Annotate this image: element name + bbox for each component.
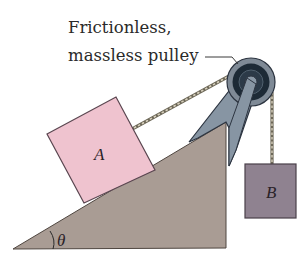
block-b-label: B (266, 183, 277, 202)
callout-line-1: Frictionless, (68, 18, 172, 37)
callout-line-2: massless pulley (68, 46, 199, 65)
angle-theta-label: θ (57, 231, 65, 250)
callout-leader-line (205, 57, 238, 64)
block-a-label: A (93, 145, 105, 164)
physics-diagram: θ A B Frictionless, massless pulley (0, 0, 303, 262)
